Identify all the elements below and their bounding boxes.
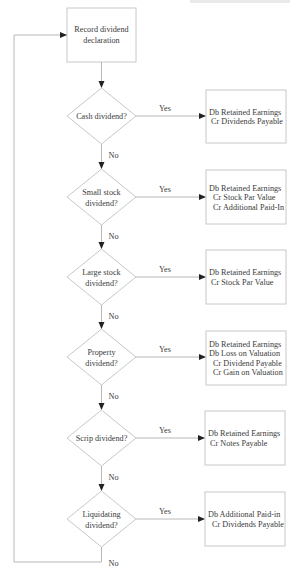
arrow-right-icon bbox=[198, 435, 205, 441]
arrow-down-icon bbox=[99, 322, 105, 329]
start-label-line1: Record dividend bbox=[74, 25, 128, 34]
journal-entry-line: Cr Dividends Payable bbox=[209, 117, 283, 126]
arrow-right-icon bbox=[199, 274, 206, 280]
yes-label: Yes bbox=[159, 507, 171, 516]
no-label: No bbox=[108, 559, 118, 568]
journal-entry-line: Cr Dividend Payable bbox=[209, 359, 282, 368]
journal-entry-line: Db Retained Earnings bbox=[209, 184, 281, 193]
journal-entry-line: Cr Additional Paid-In bbox=[209, 203, 284, 212]
journal-entry-line: Cr Stock Par Value bbox=[209, 193, 276, 202]
start-label-line2: declaration bbox=[83, 36, 119, 45]
arrow-right-icon bbox=[198, 516, 205, 522]
yes-label: Yes bbox=[159, 185, 171, 194]
decision-label-line2: dividend? bbox=[85, 279, 118, 288]
journal-entry-line: Db Retained Earnings bbox=[209, 340, 281, 349]
no-label: No bbox=[108, 312, 118, 321]
journal-entry-line: Db Additional Paid-in bbox=[208, 510, 280, 519]
decision-diamond bbox=[67, 169, 136, 225]
journal-entry-line: Cr Gain on Valuation bbox=[209, 368, 283, 377]
yes-label: Yes bbox=[159, 265, 171, 274]
arrow-right-icon bbox=[60, 32, 67, 38]
decision-node bbox=[67, 491, 136, 547]
journal-entry-line: Db Retained Earnings bbox=[209, 108, 281, 117]
journal-entry-line: Cr Stock Par Value bbox=[209, 278, 274, 287]
yes-label: Yes bbox=[159, 104, 171, 113]
decision-label-line1: Small stock bbox=[82, 188, 121, 197]
journal-entry-line: Db Retained Earnings bbox=[208, 429, 280, 438]
decision-diamond bbox=[67, 329, 136, 385]
decision-label: Cash dividend? bbox=[76, 112, 127, 121]
no-label: No bbox=[108, 232, 118, 241]
arrow-down-icon bbox=[99, 242, 105, 249]
no-label: No bbox=[108, 392, 118, 401]
arrow-down-icon bbox=[99, 403, 105, 410]
decision-node bbox=[67, 329, 136, 385]
decision-diamond bbox=[67, 491, 136, 547]
no-label: No bbox=[108, 473, 118, 482]
decision-label-line2: dividend? bbox=[85, 521, 118, 530]
start-box bbox=[67, 8, 136, 62]
arrow-right-icon bbox=[199, 354, 206, 360]
decision-node bbox=[67, 169, 136, 225]
journal-entry-line: Cr Dividends Payable bbox=[208, 520, 284, 529]
decision-node bbox=[67, 249, 136, 305]
arrow-down-icon bbox=[99, 484, 105, 491]
decision-label-line1: Large stock bbox=[82, 268, 121, 277]
decision-label-line2: dividend? bbox=[85, 199, 118, 208]
journal-entry-line: Db Loss on Valuation bbox=[209, 349, 280, 358]
no-label: No bbox=[108, 151, 118, 160]
decision-label-line1: Property bbox=[87, 348, 116, 357]
decision-label: Scrip dividend? bbox=[76, 434, 128, 443]
arrow-down-icon bbox=[99, 81, 105, 88]
arrow-right-icon bbox=[199, 194, 206, 200]
decision-diamond bbox=[67, 249, 136, 305]
decision-label-line1: Liquidating bbox=[82, 510, 120, 519]
arrow-right-icon bbox=[199, 113, 206, 119]
journal-entry-line: Cr Notes Payable bbox=[208, 439, 268, 448]
decision-label-line2: dividend? bbox=[85, 359, 118, 368]
yes-label: Yes bbox=[159, 426, 171, 435]
arrow-down-icon bbox=[99, 162, 105, 169]
yes-label: Yes bbox=[159, 345, 171, 354]
dividend-flowchart: Record dividenddeclarationCash dividend?… bbox=[0, 0, 300, 575]
journal-entry-line: Db Retained Earnings bbox=[209, 268, 281, 277]
